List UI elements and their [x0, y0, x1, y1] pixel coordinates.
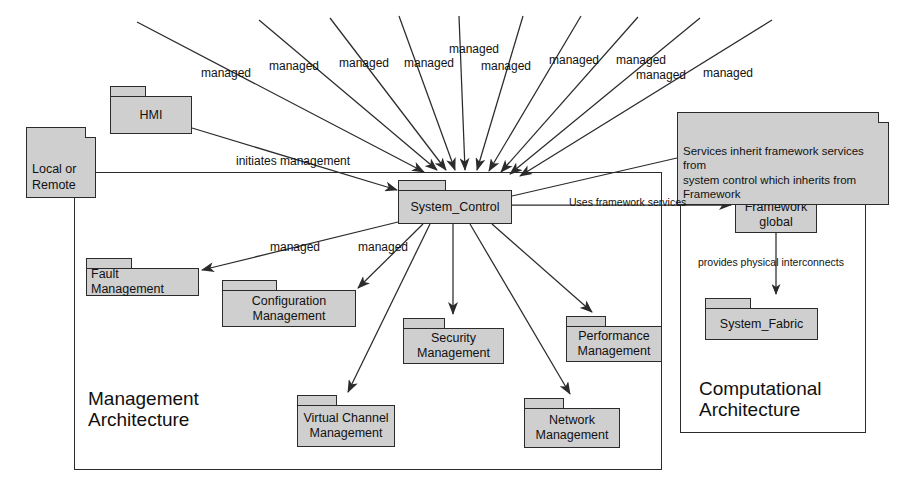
- package-label: System_Control: [398, 190, 512, 224]
- package-label: Configuration Management: [222, 290, 356, 327]
- note-text: Local or Remote: [32, 162, 76, 192]
- computational-architecture-label: Computational Architecture: [699, 378, 822, 421]
- edge-label-managed-6: managed: [481, 59, 531, 73]
- edge-label-uses-framework-services: Uses framework services: [569, 196, 686, 208]
- package-label: System_Fabric: [705, 308, 818, 340]
- package-label: Network Management: [524, 408, 620, 448]
- package-system-fabric[interactable]: System_Fabric: [705, 298, 818, 340]
- package-label: Virtual Channel Management: [297, 405, 395, 447]
- edge-label-managed-5: managed: [449, 42, 499, 56]
- package-label: HMI: [110, 96, 192, 134]
- edge-label-managed-3: managed: [339, 56, 389, 70]
- edge-label-managed-1: managed: [201, 66, 251, 80]
- package-performance-management[interactable]: Performance Management: [566, 316, 662, 362]
- package-virtual-channel-management[interactable]: Virtual Channel Management: [297, 395, 395, 447]
- package-network-management[interactable]: Network Management: [524, 398, 620, 448]
- diagram-canvas: Management Architecture Computational Ar…: [0, 0, 921, 488]
- edge-label-managed-4: managed: [404, 56, 454, 70]
- package-system-control[interactable]: System_Control: [398, 180, 512, 224]
- edge-label-managed-2: managed: [269, 59, 319, 73]
- edge-label-provides-physical-interconnects: provides physical interconnects: [698, 256, 844, 268]
- note-fold-icon: [85, 127, 96, 138]
- package-security-management[interactable]: Security Management: [403, 318, 504, 364]
- edge-label-managed-fault: managed: [358, 240, 408, 254]
- package-label: Performance Management: [566, 326, 662, 362]
- package-configuration-management[interactable]: Configuration Management: [222, 280, 356, 327]
- edge-label-initiates-management: initiates management: [236, 154, 350, 168]
- management-architecture-label: Management Architecture: [88, 388, 199, 431]
- edge-label-managed-7: managed: [549, 53, 599, 67]
- package-fault-management[interactable]: Fault Management: [86, 258, 199, 296]
- note-services-inherit: Services inherit framework services from…: [677, 112, 889, 205]
- package-label: Fault Management: [86, 268, 199, 296]
- note-text: Services inherit framework services from…: [683, 145, 864, 199]
- edge-label-managed-configuration: managed: [270, 240, 320, 254]
- edge-label-managed-9: managed: [636, 68, 686, 82]
- edge-label-managed-10: managed: [703, 66, 753, 80]
- edge-label-managed-8: managed: [616, 53, 666, 67]
- package-hmi[interactable]: HMI: [110, 86, 192, 134]
- note-local-or-remote: Local or Remote: [26, 127, 96, 198]
- note-fold-icon: [878, 112, 889, 123]
- package-label: Security Management: [403, 328, 504, 364]
